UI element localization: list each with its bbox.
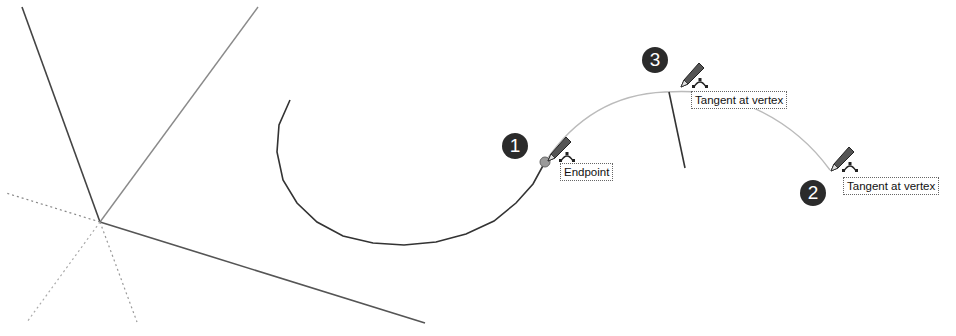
step-badge-1: 1: [502, 133, 528, 159]
step-badge-2: 2: [800, 180, 826, 206]
axis-red-dotted: [6, 193, 100, 222]
tangent-line: [669, 92, 685, 168]
axis-green-solid: [100, 7, 258, 222]
pencil-arc-icon: [546, 133, 576, 163]
axis-red-solid: [100, 222, 425, 323]
drawing-canvas[interactable]: [0, 0, 956, 336]
tooltip-endpoint: Endpoint: [560, 163, 613, 181]
tooltip-tangent-at-vertex-2: Tangent at vertex: [843, 177, 939, 195]
preview-arc: [545, 92, 830, 171]
pencil-arc-icon: [679, 59, 709, 89]
step-badge-3: 3: [642, 47, 668, 73]
axis-blue-solid: [22, 7, 100, 222]
axis-green-dotted: [27, 222, 100, 322]
tooltip-tangent-at-vertex-3: Tangent at vertex: [691, 91, 787, 109]
pencil-arc-icon: [829, 143, 859, 173]
axis-blue-dotted: [100, 222, 137, 322]
existing-arc[interactable]: [277, 100, 545, 245]
